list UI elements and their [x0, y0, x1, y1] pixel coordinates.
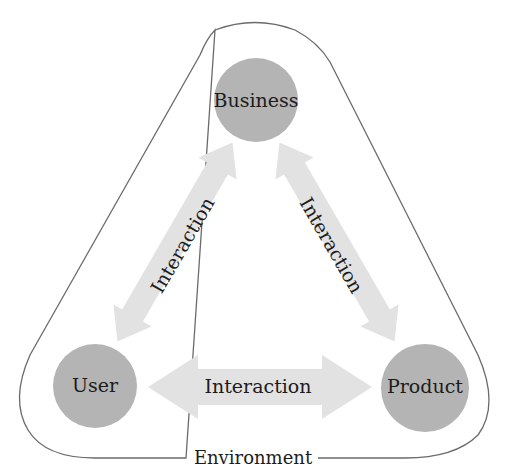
interaction-diagram: Interaction Interaction Interaction Busi… [0, 0, 506, 473]
node-label-product: Product [387, 375, 463, 397]
edge-label-business-product: Interaction [295, 193, 368, 297]
node-label-user: User [72, 374, 119, 396]
environment-label: Environment [194, 447, 313, 468]
edge-label-user-product: Interaction [204, 375, 311, 397]
node-label-business: Business [213, 89, 298, 111]
node-user: User [53, 344, 137, 428]
node-business: Business [213, 58, 298, 142]
node-product: Product [381, 344, 469, 432]
